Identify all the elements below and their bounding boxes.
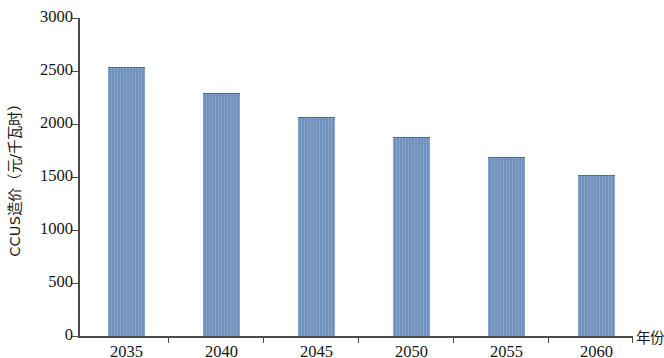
x-axis-title: 年份 xyxy=(636,326,664,347)
bar-2040 xyxy=(203,93,240,336)
y-tick-label: 500 xyxy=(48,274,73,291)
plot-area: 0 500 1000 1500 2000 2500 3000 xyxy=(78,18,632,336)
bar-2045 xyxy=(298,117,335,336)
y-tick-label: 1000 xyxy=(40,221,73,238)
x-tick-mark xyxy=(358,336,359,343)
y-tick-label: 3000 xyxy=(40,9,73,26)
x-tick-mark xyxy=(548,336,549,343)
x-tick-mark xyxy=(632,336,633,343)
y-tick-label: 0 xyxy=(65,327,73,344)
bar-2035 xyxy=(108,67,145,336)
bar-2060 xyxy=(578,175,615,336)
bar-2055 xyxy=(488,157,525,336)
x-tick-mark xyxy=(263,336,264,343)
y-tick-label: 2500 xyxy=(40,62,73,79)
x-tick-label-2055: 2055 xyxy=(476,344,537,358)
x-tick-label-2035: 2035 xyxy=(96,344,157,358)
x-tick-label-2060: 2060 xyxy=(566,344,627,358)
bar-2050 xyxy=(393,137,430,336)
x-tick-label-2050: 2050 xyxy=(381,344,442,358)
y-axis-title: CCUS造价（元/千瓦时） xyxy=(2,18,24,336)
y-tick-label: 1500 xyxy=(40,168,73,185)
y-axis-line xyxy=(78,18,80,336)
x-tick-mark xyxy=(453,336,454,343)
x-tick-label-2040: 2040 xyxy=(191,344,252,358)
y-tick-label: 2000 xyxy=(40,115,73,132)
x-tick-label-2045: 2045 xyxy=(286,344,347,358)
x-tick-mark xyxy=(168,336,169,343)
